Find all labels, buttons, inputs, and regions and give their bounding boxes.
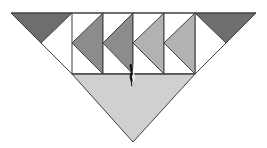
diagram-svg	[0, 0, 267, 148]
arrow-panels	[72, 13, 195, 74]
right-corner-triangle	[195, 13, 256, 43]
outline-line-3	[195, 43, 226, 74]
base-triangle-group	[72, 74, 195, 142]
left-corner-triangle	[11, 13, 72, 43]
base-triangle	[72, 74, 195, 142]
quilt-diagram	[0, 0, 267, 148]
outline-line-2	[41, 43, 72, 74]
